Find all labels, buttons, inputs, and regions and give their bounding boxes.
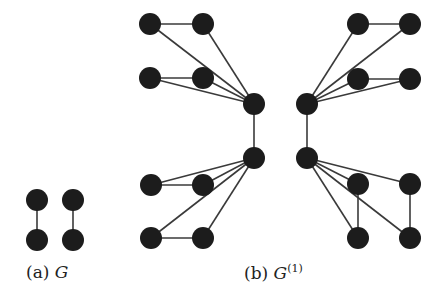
graph-node-b	[192, 227, 214, 249]
graph-node-b	[347, 227, 369, 249]
graph-node-a	[26, 229, 48, 251]
caption-b-superscript: (1)	[287, 262, 303, 275]
graph-node-a	[62, 229, 84, 251]
caption-b: (b) G(1)	[244, 262, 303, 283]
caption-b-label: (b)	[244, 263, 268, 283]
graph-node-b	[399, 173, 421, 195]
graph-canvas	[0, 0, 447, 307]
graph-node-a	[26, 189, 48, 211]
graph-node-b	[243, 147, 265, 169]
graph-node-b	[192, 13, 214, 35]
graph-edge-b	[307, 158, 358, 238]
graph-node-b	[347, 173, 369, 195]
graph-node-b	[399, 13, 421, 35]
caption-b-symbol: G	[274, 263, 288, 283]
caption-a-label: (a)	[26, 262, 49, 282]
edges-layer	[37, 24, 410, 240]
graph-node-b	[139, 13, 161, 35]
graph-edge-b	[151, 158, 254, 238]
graph-node-b	[140, 227, 162, 249]
graph-node-b	[296, 93, 318, 115]
graph-node-b	[192, 174, 214, 196]
caption-a: (a) G	[26, 262, 68, 282]
graph-node-b	[399, 68, 421, 90]
graph-node-b	[243, 93, 265, 115]
nodes-layer	[26, 13, 421, 251]
graph-edge-b	[150, 24, 254, 104]
graph-node-b	[347, 13, 369, 35]
graph-node-b	[192, 67, 214, 89]
graph-node-b	[347, 68, 369, 90]
graph-edge-b	[203, 24, 254, 104]
graph-node-b	[139, 67, 161, 89]
graph-node-b	[140, 174, 162, 196]
caption-a-symbol: G	[55, 262, 69, 282]
graph-node-b	[296, 147, 318, 169]
graph-node-b	[399, 227, 421, 249]
graph-node-a	[62, 189, 84, 211]
